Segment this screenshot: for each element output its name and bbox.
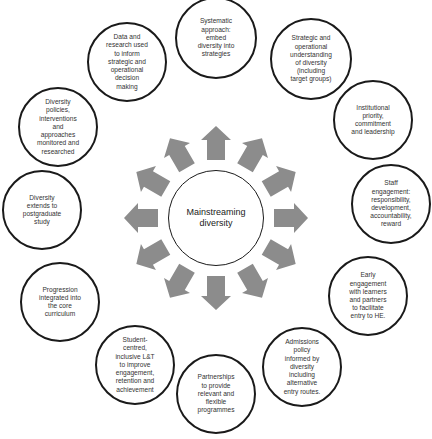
node-staff-engagement: Staff engagement: responsibility, develo… <box>351 164 431 244</box>
node-label: Staff engagement: responsibility, develo… <box>364 179 417 228</box>
node-label: Early engagement with learners and partn… <box>343 271 392 320</box>
center-label: Mainstreaming diversity <box>180 207 251 229</box>
node-label: Institutional priority, commitment and l… <box>345 104 400 137</box>
node-diversity-policies: Diversity policies, interventions and ap… <box>18 87 98 167</box>
center-circle: Mainstreaming diversity <box>168 170 264 266</box>
node-early-engagement: Early engagement with learners and partn… <box>328 256 408 336</box>
arrow-icon <box>232 261 275 305</box>
node-progression: Progression integrated into the core cur… <box>20 262 100 342</box>
arrow-icon <box>201 126 231 160</box>
arrow-icon <box>157 131 200 175</box>
node-student-centred: Student- centred, inclusive L&T to impro… <box>95 325 175 405</box>
node-label: Systematic approach: embed diversity int… <box>192 17 241 58</box>
node-label: Progression integrated into the core cur… <box>33 286 87 319</box>
node-label: Student- centred, inclusive L&T to impro… <box>109 336 160 393</box>
arrow-icon <box>274 203 308 233</box>
arrow-icon <box>129 159 173 202</box>
node-strategic-understanding: Strategic and operational understanding … <box>270 18 352 100</box>
node-label: Strategic and operational understanding … <box>284 34 338 83</box>
node-data-research: Data and research used to inform strateg… <box>87 22 167 102</box>
arrow-icon <box>201 276 231 310</box>
arrow-icon <box>259 159 303 202</box>
node-systematic-approach: Systematic approach: embed diversity int… <box>175 0 257 79</box>
mainstreaming-diversity-diagram: Mainstreaming diversity Systematic appro… <box>0 0 432 439</box>
node-label: Diversity policies, interventions and ap… <box>31 98 85 155</box>
arrow-icon <box>157 261 200 305</box>
node-partnerships: Partnerships to provide relevant and fle… <box>176 354 256 434</box>
node-label: Data and research used to inform strateg… <box>100 33 154 90</box>
node-label: Partnerships to provide relevant and fle… <box>191 373 240 414</box>
node-postgraduate-study: Diversity extends to postgraduate study <box>2 170 82 250</box>
node-label: Diversity extends to postgraduate study <box>17 194 68 227</box>
arrow-icon <box>232 131 275 175</box>
arrow-icon <box>129 234 173 277</box>
arrow-icon <box>259 234 303 277</box>
node-institutional-priority: Institutional priority, commitment and l… <box>333 80 413 160</box>
node-label: Admissions policy informed by diversity … <box>278 338 327 395</box>
arrow-icon <box>124 203 158 233</box>
node-admissions-policy: Admissions policy informed by diversity … <box>262 327 342 407</box>
